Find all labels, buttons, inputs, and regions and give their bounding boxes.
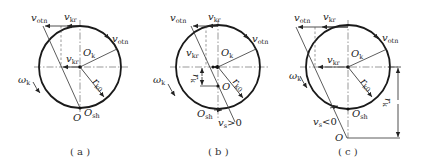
label-v-kr-mid: vkr xyxy=(327,54,341,67)
panel-b: votn vkr votn Ok vkr ωk rk rk0 O Osh vs>… xyxy=(153,11,270,157)
label-v-otn-right: votn xyxy=(252,33,268,46)
label-o-k: Ok xyxy=(221,47,233,60)
label-v-otn-top: votn xyxy=(31,12,47,25)
label-o-sh: Osh xyxy=(352,108,368,121)
label-o: O xyxy=(222,81,230,92)
intersection-dot xyxy=(212,66,215,69)
label-v-kr-mid: vkr xyxy=(186,47,200,60)
caption-a: ( a ) xyxy=(70,146,90,157)
label-omega-k: ωk xyxy=(153,74,165,87)
omega-arrow xyxy=(168,84,175,96)
contact-dot xyxy=(347,108,350,111)
label-o-sh: Osh xyxy=(197,108,213,121)
label-o-k: Ok xyxy=(351,48,363,61)
label-o: O xyxy=(73,112,81,123)
panel-a: votn vkr votn Ok vkr ωk rk0 O Osh ( a ) xyxy=(18,11,128,157)
label-v-s: vs>0 xyxy=(218,117,242,130)
label-omega-k: ωk xyxy=(289,70,301,83)
label-omega-k: ωk xyxy=(18,74,30,87)
caption-c: ( c ) xyxy=(338,146,358,157)
caption-b: ( b ) xyxy=(208,146,229,157)
label-r-k0: rk0 xyxy=(357,76,375,94)
label-r-k: rk xyxy=(189,74,202,83)
label-v-kr-top: vkr xyxy=(208,11,222,24)
label-v-kr-mid: vkr xyxy=(66,53,80,66)
label-v-otn-top: votn xyxy=(294,12,310,25)
contact-dot xyxy=(79,107,82,110)
label-r-k0: rk0 xyxy=(89,76,107,94)
omega-arrow xyxy=(33,82,40,93)
panel-c: votn vkr votn Ok vkr ωk rk0 rk Osh vs<0 … xyxy=(289,11,401,157)
label-v-kr-top: vkr xyxy=(64,11,78,24)
label-r-k: rk xyxy=(381,98,394,107)
label-v-otn-right: votn xyxy=(382,32,398,45)
label-v-s: vs<0 xyxy=(313,116,337,129)
label-v-otn-top: votn xyxy=(170,12,186,25)
label-o-sh: Osh xyxy=(84,107,100,120)
label-o-k: Ok xyxy=(83,47,95,60)
label-o: O xyxy=(335,132,343,143)
label-v-kr-top: vkr xyxy=(323,11,337,24)
kinematics-diagram: votn vkr votn Ok vkr ωk rk0 O Osh ( a ) xyxy=(0,0,421,167)
